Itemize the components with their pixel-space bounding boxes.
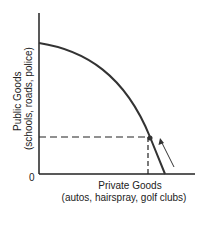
origin-label: 0	[29, 172, 35, 183]
arrowhead-icon	[159, 138, 165, 145]
x-axis-label: Private Goods	[50, 180, 205, 191]
ppf-curve	[39, 43, 165, 174]
movement-arrow	[161, 141, 174, 167]
x-axis-sublabel: (autos, hairspray, golf clubs)	[44, 192, 204, 203]
marked-point	[148, 136, 153, 141]
